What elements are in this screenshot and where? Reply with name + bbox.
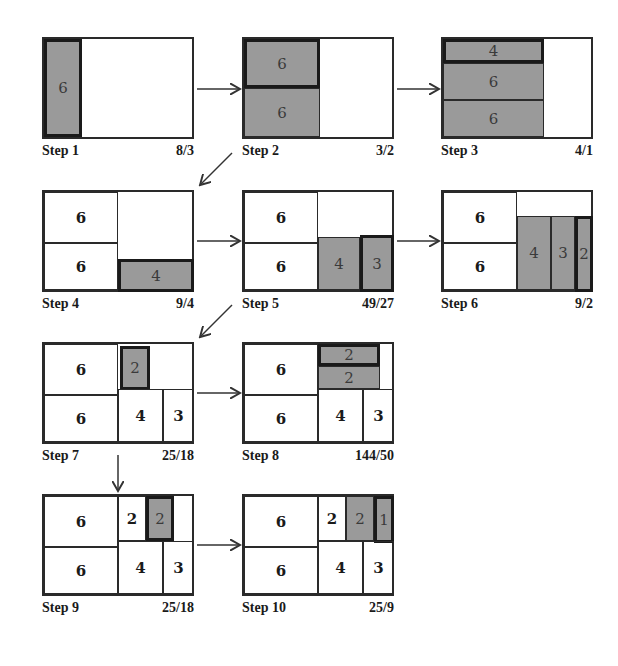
packed-rectangle: 2 — [318, 496, 346, 541]
arrow-icon — [200, 305, 232, 337]
step-label: Step 5 — [242, 296, 279, 312]
aspect-ratio: 25/9 — [369, 600, 394, 616]
aspect-ratio: 25/18 — [162, 448, 194, 464]
step-label: Step 7 — [42, 448, 79, 464]
packed-rectangle: 2 — [318, 366, 380, 389]
packed-rectangle: 6 — [44, 192, 118, 243]
aspect-ratio: 25/18 — [162, 600, 194, 616]
step-label: Step 3 — [441, 143, 478, 159]
packed-rectangle: 3 — [363, 541, 394, 594]
packed-rectangle: 2 — [346, 496, 374, 541]
aspect-ratio: 4/1 — [575, 143, 593, 159]
step-panel: 466Step 34/1 — [441, 37, 593, 139]
aspect-ratio: 9/2 — [575, 296, 593, 312]
packed-rectangle: 1 — [374, 496, 394, 543]
packed-rectangle: 6 — [44, 496, 118, 547]
packed-rectangle: 6 — [244, 547, 318, 594]
packed-rectangle: 6 — [244, 344, 318, 395]
packed-rectangle: 2 — [120, 346, 150, 390]
packed-rectangle: 2 — [575, 216, 593, 292]
packing-box: 664 — [42, 190, 194, 292]
packed-rectangle: 6 — [244, 39, 320, 88]
packing-box: 6622143 — [242, 494, 394, 596]
step-label: Step 4 — [42, 296, 79, 312]
packed-rectangle: 6 — [44, 395, 118, 442]
packed-rectangle: 3 — [551, 216, 575, 290]
packed-rectangle: 6 — [244, 192, 318, 243]
packed-rectangle: 4 — [118, 259, 194, 292]
step-panel: 662243Step 8144/50 — [242, 342, 394, 444]
step-label: Step 8 — [242, 448, 279, 464]
packed-rectangle: 3 — [363, 389, 394, 442]
packed-rectangle: 4 — [118, 389, 163, 442]
aspect-ratio: 8/3 — [176, 143, 194, 159]
packed-rectangle: 6 — [44, 39, 82, 137]
arrow-icon — [200, 153, 232, 185]
packed-rectangle: 6 — [443, 243, 517, 290]
packed-rectangle: 4 — [318, 541, 363, 594]
packed-rectangle: 3 — [163, 389, 194, 442]
packing-box: 66 — [242, 37, 394, 139]
packed-rectangle: 4 — [318, 237, 360, 290]
step-panel: 662243Step 925/18 — [42, 494, 194, 596]
packing-box: 466 — [441, 37, 593, 139]
packed-rectangle: 4 — [318, 389, 363, 442]
packed-rectangle: 6 — [244, 243, 318, 290]
packed-rectangle: 6 — [244, 395, 318, 442]
packing-box: 6 — [42, 37, 194, 139]
step-panel: 66432Step 69/2 — [441, 190, 593, 292]
packed-rectangle: 6 — [44, 547, 118, 594]
step-label: Step 2 — [242, 143, 279, 159]
step-panel: 6622143Step 1025/9 — [242, 494, 394, 596]
aspect-ratio: 144/50 — [355, 448, 394, 464]
packed-rectangle: 4 — [443, 39, 544, 63]
step-panel: 66243Step 725/18 — [42, 342, 194, 444]
step-label: Step 10 — [242, 600, 286, 616]
packing-box: 662243 — [42, 494, 194, 596]
step-panel: 6Step 18/3 — [42, 37, 194, 139]
packing-box: 66432 — [441, 190, 593, 292]
packed-rectangle: 6 — [44, 344, 118, 395]
step-label: Step 6 — [441, 296, 478, 312]
packing-box: 662243 — [242, 342, 394, 444]
packed-rectangle: 6 — [244, 88, 320, 137]
step-panel: 66Step 23/2 — [242, 37, 394, 139]
packed-rectangle: 4 — [517, 216, 551, 290]
aspect-ratio: 3/2 — [376, 143, 394, 159]
packed-rectangle: 4 — [118, 541, 163, 594]
packed-rectangle: 3 — [360, 235, 394, 292]
packed-rectangle: 6 — [443, 192, 517, 243]
aspect-ratio: 9/4 — [176, 296, 194, 312]
step-panel: 664Step 49/4 — [42, 190, 194, 292]
step-panel: 6643Step 549/27 — [242, 190, 394, 292]
packed-rectangle: 2 — [146, 496, 174, 541]
packed-rectangle: 6 — [244, 496, 318, 547]
packing-box: 66243 — [42, 342, 194, 444]
packed-rectangle: 2 — [318, 344, 380, 366]
packed-rectangle: 2 — [118, 496, 146, 541]
packed-rectangle: 6 — [443, 100, 544, 137]
packed-rectangle: 3 — [163, 541, 194, 594]
step-label: Step 1 — [42, 143, 79, 159]
step-label: Step 9 — [42, 600, 79, 616]
packed-rectangle: 6 — [44, 243, 118, 290]
packed-rectangle: 6 — [443, 63, 544, 100]
packing-box: 6643 — [242, 190, 394, 292]
aspect-ratio: 49/27 — [362, 296, 394, 312]
